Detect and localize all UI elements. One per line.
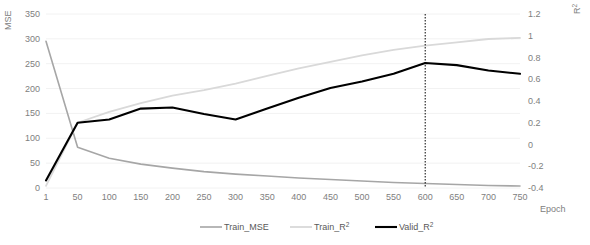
y-right-tick-label: 0 [528, 140, 533, 150]
chart-legend: Train_MSETrain_R2Valid_R2 [200, 221, 434, 232]
x-tick-label: 250 [196, 192, 211, 202]
x-axis-tick-labels: 1501001502002503003504004505005506006507… [43, 192, 527, 202]
x-axis-title: Epoch [540, 204, 566, 214]
y-right-tick-label: 1.2 [528, 9, 541, 19]
y-left-tick-label: 50 [30, 158, 40, 168]
y-right-axis-title: R2 [571, 4, 582, 15]
legend-label: Train_MSE [224, 222, 269, 232]
y-right-tick-label: 0.4 [528, 96, 541, 106]
legend-label: Train_R2 [314, 221, 350, 232]
y-right-tick-label: 0.8 [528, 53, 541, 63]
y-left-tick-label: 100 [25, 133, 40, 143]
x-tick-label: 350 [260, 192, 275, 202]
y-right-tick-label: -0.4 [528, 183, 544, 193]
y-right-tick-label: 1 [528, 31, 533, 41]
x-tick-label: 50 [73, 192, 83, 202]
y-left-tick-label: 300 [25, 34, 40, 44]
x-tick-label: 150 [133, 192, 148, 202]
x-tick-label: 450 [323, 192, 338, 202]
dual-axis-line-chart: 1501001502002503003504004505005506006507… [0, 0, 590, 245]
x-tick-label: 400 [291, 192, 306, 202]
y-right-tick-label: 0.6 [528, 74, 541, 84]
x-tick-label: 300 [228, 192, 243, 202]
x-tick-label: 600 [418, 192, 433, 202]
x-tick-label: 700 [481, 192, 496, 202]
y-left-tick-label: 250 [25, 59, 40, 69]
x-tick-label: 500 [354, 192, 369, 202]
y-left-tick-label: 150 [25, 108, 40, 118]
series-lines [46, 38, 520, 186]
y-right-tick-labels: -0.4-0.200.20.40.60.811.2 [528, 9, 544, 193]
chart-container: 1501001502002503003504004505005506006507… [0, 0, 590, 245]
x-tick-label: 100 [102, 192, 117, 202]
x-tick-label: 200 [165, 192, 180, 202]
y-left-tick-label: 200 [25, 84, 40, 94]
y-left-axis-title: MSE [3, 10, 13, 30]
y-left-tick-labels: 050100150200250300350 [25, 9, 40, 193]
y-right-tick-label: -0.2 [528, 161, 544, 171]
gridlines [46, 14, 520, 188]
x-tick-label: 750 [512, 192, 527, 202]
y-left-tick-label: 0 [35, 183, 40, 193]
y-right-tick-label: 0.2 [528, 118, 541, 128]
y-left-tick-label: 350 [25, 9, 40, 19]
x-tick-label: 1 [43, 192, 48, 202]
legend-label: Valid_R2 [399, 221, 434, 232]
x-tick-label: 550 [386, 192, 401, 202]
y-right-axis-title-superscript: 2 [571, 4, 578, 8]
x-tick-label: 650 [449, 192, 464, 202]
